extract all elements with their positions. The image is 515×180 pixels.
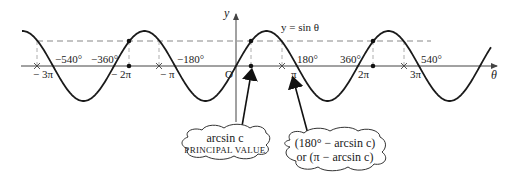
- y-axis-label: y: [223, 6, 230, 20]
- callout-secondary: (180° − arcsin c) or (π − arcsin c): [285, 127, 386, 171]
- tick-deg-neg360: −360°: [91, 53, 118, 65]
- tick-rad-neg3pi: − 3π: [33, 68, 53, 80]
- tick-deg-360: 360°: [340, 53, 361, 65]
- callout-secondary-line1: (180° − arcsin c): [295, 136, 376, 150]
- solution-dots: [127, 39, 376, 69]
- tick-deg-180: 180°: [297, 53, 318, 65]
- curve-label: y = sin θ: [281, 21, 319, 33]
- tick-rad-neg2pi: − 2π: [111, 68, 131, 80]
- tick-rad-3pi: 3π: [410, 68, 422, 80]
- callout-principal-line1: arcsin c: [207, 131, 244, 145]
- tick-deg-540: 540°: [421, 53, 442, 65]
- tick-rad-pi: π: [291, 68, 297, 80]
- sine-graph: −540° −360° −180° 180° 360° 540° − 3π − …: [0, 0, 515, 180]
- arrow-secondary: [294, 82, 308, 134]
- x-axis-label: θ: [491, 68, 497, 82]
- arrow-principal: [241, 74, 251, 132]
- tick-deg-neg180: −180°: [177, 53, 204, 65]
- tick-rad-negpi: − π: [160, 68, 175, 80]
- tick-rad-2pi: 2π: [358, 68, 370, 80]
- callout-principal-line2: PRINCIPAL VALUE: [184, 145, 265, 155]
- callout-secondary-line2: or (π − arcsin c): [297, 150, 374, 164]
- callout-principal: arcsin c PRINCIPAL VALUE: [182, 124, 270, 159]
- origin-label: O: [225, 68, 233, 80]
- tick-deg-neg540: −540°: [55, 53, 82, 65]
